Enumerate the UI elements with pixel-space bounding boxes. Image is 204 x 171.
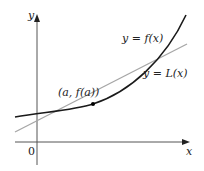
curve-f-label: y = f(x)	[121, 32, 163, 45]
curve-f	[15, 15, 186, 117]
point-label: (a, f(a))	[58, 86, 99, 99]
tangent-line-L	[15, 44, 187, 132]
tangent-L-label: y = L(x)	[142, 67, 188, 80]
tangent-point	[91, 102, 95, 106]
y-axis-label: y	[27, 9, 35, 22]
linear-approximation-diagram: y x 0 y = f(x) y = L(x) (a, f(a))	[0, 0, 204, 171]
origin-label: 0	[28, 145, 35, 158]
y-axis-arrow-icon	[34, 14, 40, 22]
x-axis-label: x	[186, 145, 193, 158]
